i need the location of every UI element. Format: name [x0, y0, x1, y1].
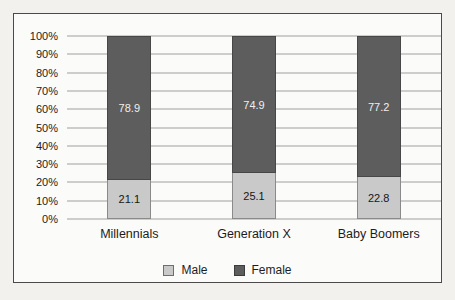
legend-swatch-male	[163, 265, 174, 276]
bar-segment-male-generation-x: 25.1	[232, 173, 276, 219]
bar-segment-male-baby-boomers: 22.8	[357, 177, 401, 219]
stacked-bar-millennials: 78.9 21.1	[107, 36, 151, 219]
legend-label-female: Female	[252, 263, 292, 277]
plot-area: 78.9 21.1 74.9 25.1	[67, 36, 441, 219]
y-tick-label: 100%	[30, 31, 58, 42]
data-label-male-baby-boomers: 22.8	[368, 192, 389, 204]
category-label-millennials: Millennials	[67, 226, 192, 242]
data-label-female-millennials: 78.9	[119, 102, 140, 114]
bar-segment-female-millennials: 78.9	[107, 36, 151, 180]
y-tick-label: 90%	[36, 49, 58, 60]
stacked-bar-baby-boomers: 77.2 22.8	[357, 36, 401, 219]
x-axis-category-labels: Millennials Generation X Baby Boomers	[67, 226, 441, 242]
y-tick-label: 60%	[36, 104, 58, 115]
figure: 100%90%80%70%60%50%40%30%20%10%0% 78.9 2…	[0, 0, 455, 300]
legend-swatch-female	[234, 265, 245, 276]
legend-label-male: Male	[181, 263, 207, 277]
y-tick-label: 70%	[36, 85, 58, 96]
y-tick-label: 40%	[36, 140, 58, 151]
category-label-baby-boomers: Baby Boomers	[316, 226, 441, 242]
data-label-male-millennials: 21.1	[119, 193, 140, 205]
y-axis: 100%90%80%70%60%50%40%30%20%10%0%	[14, 36, 58, 219]
legend-item-male: Male	[163, 263, 207, 277]
stacked-bar-generation-x: 74.9 25.1	[232, 36, 276, 219]
bar-segment-female-baby-boomers: 77.2	[357, 36, 401, 177]
category-label-generation-x: Generation X	[192, 226, 317, 242]
y-tick-label: 10%	[36, 195, 58, 206]
bar-slot-baby-boomers: 77.2 22.8	[316, 36, 441, 219]
y-tick-label: 20%	[36, 177, 58, 188]
legend-item-female: Female	[234, 263, 292, 277]
y-tick-label: 0%	[42, 214, 58, 225]
chart-frame: 100%90%80%70%60%50%40%30%20%10%0% 78.9 2…	[13, 13, 442, 283]
y-tick-label: 50%	[36, 122, 58, 133]
data-label-male-generation-x: 25.1	[243, 190, 264, 202]
bars: 78.9 21.1 74.9 25.1	[67, 36, 441, 219]
data-label-female-generation-x: 74.9	[243, 99, 264, 111]
bar-segment-male-millennials: 21.1	[107, 180, 151, 219]
legend: Male Female	[14, 263, 441, 277]
bar-segment-female-generation-x: 74.9	[232, 36, 276, 173]
data-label-female-baby-boomers: 77.2	[368, 101, 389, 113]
y-tick-label: 80%	[36, 67, 58, 78]
bar-slot-generation-x: 74.9 25.1	[192, 36, 317, 219]
y-tick-label: 30%	[36, 159, 58, 170]
bar-slot-millennials: 78.9 21.1	[67, 36, 192, 219]
